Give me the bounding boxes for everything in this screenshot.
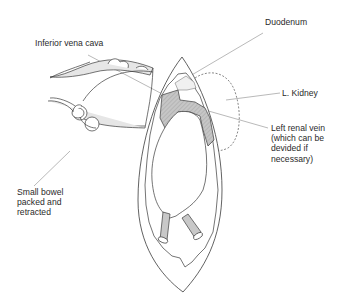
renal-vein-line2: (which can be — [271, 133, 325, 143]
diagram-canvas: Duodenum Inferior vena cava L. Kidney Le… — [0, 0, 353, 305]
leader-renal-vein — [205, 110, 268, 128]
label-left-renal-vein: Left renal vein (which can be devided if… — [271, 123, 325, 164]
leader-kidney — [226, 93, 280, 100]
renal-vein-line1: Left renal vein — [271, 123, 325, 133]
leader-duodenum — [190, 33, 263, 76]
small-bowel-line2: packed and — [17, 197, 63, 207]
renal-vein-line3: devided if — [271, 143, 325, 153]
label-left-kidney: L. Kidney — [282, 88, 318, 98]
label-inferior-vena-cava: Inferior vena cava — [35, 38, 103, 48]
small-bowel-retracted — [48, 59, 153, 131]
leader-bowel — [34, 151, 70, 186]
label-small-bowel: Small bowel packed and retracted — [17, 187, 63, 218]
renal-vein-line4: necessary) — [271, 154, 325, 164]
small-bowel-line3: retracted — [17, 207, 63, 217]
small-bowel-line1: Small bowel — [17, 187, 63, 197]
label-duodenum: Duodenum — [265, 17, 307, 27]
